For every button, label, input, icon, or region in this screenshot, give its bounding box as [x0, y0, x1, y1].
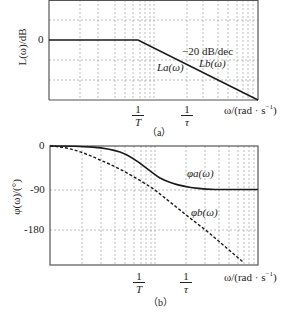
phase-tick-1-over-T: 1 T [133, 270, 145, 295]
phase-tick-m90: -90 [30, 183, 45, 195]
phase-xlabel: ω/(rad · s−1) [224, 270, 277, 283]
xlabel-sup: −1 [265, 103, 272, 111]
phi-b-label: φb(ω) [191, 206, 218, 218]
phi-a-label: φa(ω) [187, 167, 214, 179]
phase-tick-m180: -180 [24, 223, 44, 235]
magnitude-ylabel: L(ω)/dB [16, 12, 30, 82]
fraction-denominator: τ [180, 283, 192, 295]
magnitude-tick-0: 0 [38, 33, 44, 45]
la-label: La(ω) [157, 61, 184, 73]
bode-figure [0, 0, 285, 313]
caption-b: （b） [148, 294, 173, 309]
phase-grid [50, 146, 258, 265]
fraction-numerator: 1 [180, 270, 192, 283]
phi-b-curve [50, 146, 243, 262]
xlabel-text: ω/(rad · s [224, 271, 265, 283]
fraction-denominator: τ [181, 116, 193, 128]
phase-plot [50, 146, 258, 265]
xlabel-sup: −1 [265, 270, 272, 278]
phase-tick-0: 0 [39, 139, 45, 151]
phase-frame [50, 146, 258, 265]
phase-ylabel: φ(ω)/(°) [10, 162, 24, 232]
phase-tick-1-over-tau: 1 τ [180, 270, 192, 295]
fraction-denominator: T [133, 283, 145, 295]
xlabel-text: ω/(rad · s [224, 104, 265, 116]
lb-label: Lb(ω) [199, 57, 226, 69]
fraction-numerator: 1 [132, 103, 144, 116]
magnitude-xlabel: ω/(rad · s−1) [224, 103, 277, 116]
xlabel-end: ) [273, 271, 277, 283]
xlabel-end: ) [273, 104, 277, 116]
magnitude-tick-1-over-tau: 1 τ [181, 103, 193, 128]
slope-annotation: −20 dB/dec [182, 45, 233, 57]
fraction-denominator: T [132, 116, 144, 128]
magnitude-tick-1-over-T: 1 T [132, 103, 144, 128]
fraction-numerator: 1 [133, 270, 145, 283]
caption-a: （a） [147, 124, 171, 139]
fraction-numerator: 1 [181, 103, 193, 116]
